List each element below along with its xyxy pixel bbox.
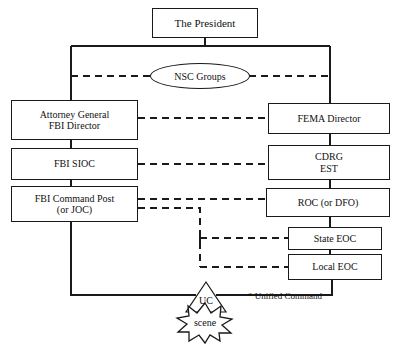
unified-command-footnote: * Unified Command [248,291,322,301]
unified-command-label: UC [186,295,226,306]
scene-label: scene [180,317,230,328]
node-local-eoc[interactable]: Local EOC [288,254,382,280]
node-label-line: FEMA Director [297,113,360,124]
edge-cp-eoc-trunk-dashed [138,208,200,267]
node-label-line: Local EOC [312,261,357,272]
edge-cp-to-uc [71,222,196,295]
node-label-line: FBI Director [49,120,100,131]
node-label-line: NSC Groups [174,71,225,82]
node-label-line: FBI Command Post [35,193,114,204]
node-nsc-groups[interactable]: NSC Groups [150,63,250,89]
node-label-line: State EOC [314,233,357,244]
node-label-line: Attorney General [40,109,110,120]
node-label-line: CDRG [315,151,343,162]
node-the-president[interactable]: The President [152,8,258,38]
node-label-line: (or JOC) [57,204,92,215]
node-fema-director[interactable]: FEMA Director [268,103,390,134]
node-state-eoc[interactable]: State EOC [288,227,382,250]
node-fbi-command-post[interactable]: FBI Command Post (or JOC) [11,186,138,222]
node-label-line: ROC (or DFO) [298,197,359,208]
node-roc-dfo[interactable]: ROC (or DFO) [266,188,390,217]
node-cdrg-est[interactable]: CDRG EST [268,145,390,180]
node-label-line: EST [320,163,338,174]
node-label-line: The President [175,17,236,29]
footnote-text: * Unified Command [248,291,322,301]
node-label-line: scene [194,317,216,328]
org-chart-diagram: The President NSC Groups Attorney Genera… [0,0,401,351]
node-attorney-general-fbi-director[interactable]: Attorney General FBI Director [11,100,138,140]
node-label-line: FBI SIOC [54,158,95,169]
node-fbi-sioc[interactable]: FBI SIOC [11,148,138,180]
node-label-line: UC [199,295,213,306]
